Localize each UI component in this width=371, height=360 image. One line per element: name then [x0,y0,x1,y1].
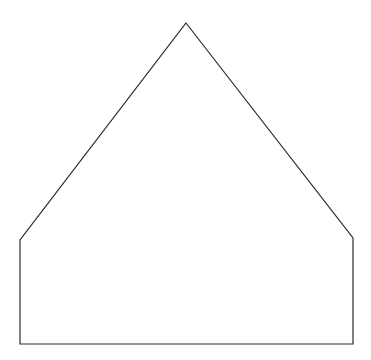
canvas-background [0,0,371,360]
drawing-canvas [0,0,371,360]
house-pentagon-figure [0,0,371,360]
